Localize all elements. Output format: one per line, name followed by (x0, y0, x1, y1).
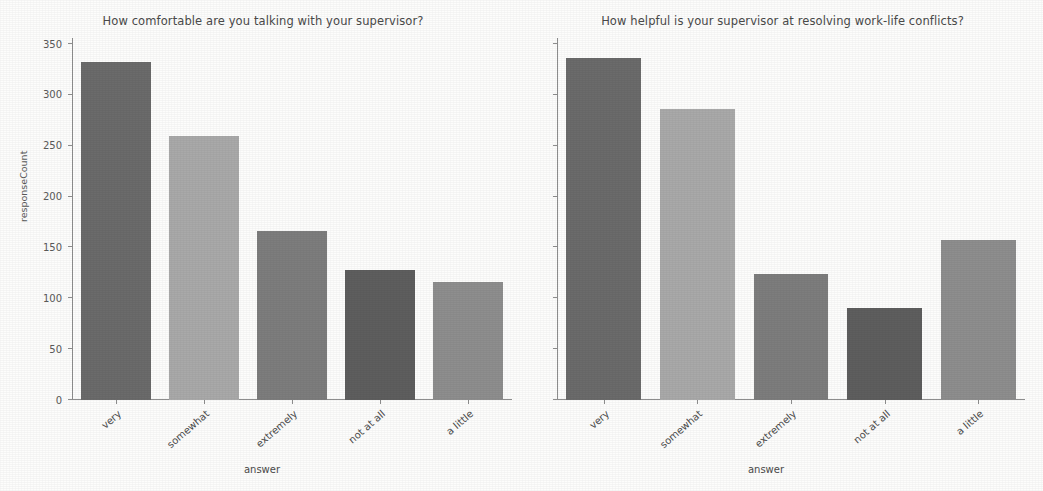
x-tick-label-right-1: somewhat (658, 408, 704, 450)
x-tick-right-2 (791, 400, 792, 404)
y-axis-label-left: responseCount (18, 151, 29, 222)
x-tick-label-right-4: a little (954, 408, 985, 437)
bar-right-somewhat[interactable] (660, 109, 735, 400)
x-tick-right-1 (697, 400, 698, 404)
x-tick-label-left-3: not at all (346, 408, 387, 445)
x-tick-right-4 (978, 400, 979, 404)
x-tick-left-3 (380, 400, 381, 404)
x-tick-label-right-0: very (587, 408, 611, 431)
x-tick-label-text: very (99, 408, 123, 431)
x-tick-label-text: very (587, 408, 611, 431)
x-axis-label-right: answer (532, 464, 1000, 475)
x-tick-label-text: somewhat (658, 408, 704, 450)
bar-left-somewhat[interactable] (169, 136, 239, 400)
bar-slot: somewhat (651, 44, 745, 400)
x-tick-left-1 (204, 400, 205, 404)
chart-panel-left: How comfortable are you talking with you… (0, 0, 522, 491)
x-tick-label-left-0: very (99, 408, 123, 431)
y-tick-label-left-100: 100 (43, 292, 62, 303)
bar-left-very[interactable] (81, 62, 151, 400)
y-tick-label-left-250: 250 (43, 140, 62, 151)
bar-left-extremely[interactable] (257, 231, 327, 400)
x-tick-right-0 (604, 400, 605, 404)
bar-left-a-little[interactable] (433, 282, 503, 400)
bar-slot: a little (931, 44, 1025, 400)
x-tick-label-text: extremely (254, 408, 299, 449)
x-tick-label-text: not at all (346, 408, 387, 445)
bar-right-extremely[interactable] (754, 274, 829, 400)
y-tick-label-left-150: 150 (43, 241, 62, 252)
y-tick-label-left-300: 300 (43, 89, 62, 100)
bar-slot: not at all (336, 44, 424, 400)
x-tick-left-2 (292, 400, 293, 404)
x-tick-right-3 (885, 400, 886, 404)
x-tick-label-right-3: not at all (851, 408, 892, 445)
chart-panel-right: How helpful is your supervisor at resolv… (522, 0, 1043, 491)
bar-group-left: verysomewhatextremelynot at alla little (72, 44, 512, 400)
x-tick-label-left-1: somewhat (165, 408, 211, 450)
y-tick-label-left-0: 0 (56, 394, 62, 405)
x-tick-label-right-2: extremely (753, 408, 798, 449)
x-tick-label-left-4: a little (444, 408, 475, 437)
bar-slot: extremely (248, 44, 336, 400)
x-axis-label-left: answer (42, 464, 482, 475)
x-tick-label-left-2: extremely (254, 408, 299, 449)
bar-right-very[interactable] (566, 58, 641, 400)
bar-slot: somewhat (160, 44, 248, 400)
x-tick-label-text: a little (954, 408, 985, 437)
bar-right-not-at-all[interactable] (847, 308, 922, 400)
x-tick-left-0 (116, 400, 117, 404)
chart-title-right: How helpful is your supervisor at resolv… (522, 14, 1043, 28)
plot-area-left: 050100150200250300350 verysomewhatextrem… (72, 44, 512, 400)
bar-slot: very (72, 44, 160, 400)
x-tick-label-text: extremely (753, 408, 798, 449)
bar-slot: extremely (744, 44, 838, 400)
y-tick-label-left-50: 50 (49, 343, 62, 354)
y-tick-label-left-350: 350 (43, 38, 62, 49)
x-tick-label-text: not at all (851, 408, 892, 445)
bar-slot: not at all (838, 44, 932, 400)
bar-slot: very (557, 44, 651, 400)
figure-canvas: How comfortable are you talking with you… (0, 0, 1043, 491)
chart-title-left: How comfortable are you talking with you… (2, 14, 524, 28)
bar-left-not-at-all[interactable] (345, 270, 415, 400)
bar-slot: a little (424, 44, 512, 400)
y-tick-label-left-200: 200 (43, 191, 62, 202)
x-tick-label-text: somewhat (165, 408, 211, 450)
bar-right-a-little[interactable] (941, 240, 1016, 400)
x-tick-left-4 (468, 400, 469, 404)
plot-area-right: verysomewhatextremelynot at alla little (557, 44, 1025, 400)
bar-group-right: verysomewhatextremelynot at alla little (557, 44, 1025, 400)
x-tick-label-text: a little (444, 408, 475, 437)
